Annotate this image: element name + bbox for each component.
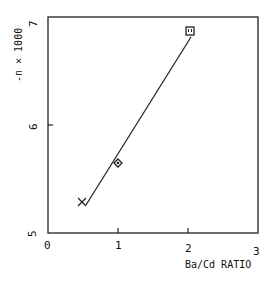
y-tick-7: 7 [27,20,40,27]
x-tick-2: 2 [185,242,192,255]
marker-square [186,27,194,35]
fit-line [86,37,191,205]
marker-diamond [114,159,122,167]
x-tick-0: 0 [44,239,51,252]
y-tick-5: 5 [26,230,39,237]
x-tick-3: 3 [253,245,260,258]
plot-frame [48,17,258,233]
y-tick-6: 6 [27,123,40,130]
x-tick-1: 1 [115,239,122,252]
chart: 0 1 2 3 Ba/Cd RATIO 5 6 7 -n × 1000 [0,0,276,283]
x-axis-ticks [118,228,188,233]
chart-svg: 0 1 2 3 Ba/Cd RATIO 5 6 7 -n × 1000 [0,0,276,283]
marker-x [78,198,86,206]
x-axis-label: Ba/Cd RATIO [185,259,251,270]
y-axis-label: -n × 1000 [13,28,24,82]
